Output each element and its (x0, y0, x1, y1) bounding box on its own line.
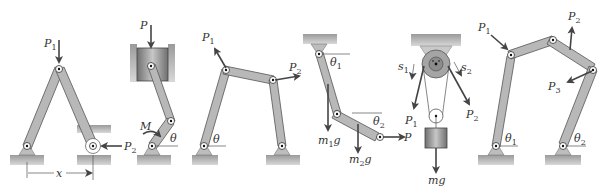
link-right (269, 80, 286, 146)
ceiling (411, 34, 461, 46)
link-coupler-1 (508, 36, 555, 59)
force-arrow-p1 (491, 35, 507, 49)
mass-block (425, 128, 447, 148)
label-theta2: θ2 (373, 115, 385, 130)
label-p1: P1 (477, 21, 491, 36)
label-m1g: m1g (318, 134, 341, 149)
disp-arrow-s2 (454, 62, 461, 75)
link-coupler (223, 66, 274, 84)
guide-wall-right (168, 44, 175, 82)
ceiling (303, 34, 337, 44)
label-mg: mg (428, 174, 445, 187)
label-p1: P1 (201, 31, 215, 46)
label-p: P (403, 131, 412, 144)
label-theta1: θ1 (505, 132, 517, 147)
label-p2: P2 (465, 108, 479, 123)
panel-c: P1 P2 θ (192, 31, 302, 165)
label-theta: θ (170, 132, 177, 145)
label-m: M (139, 120, 152, 133)
label-x: x (56, 167, 63, 180)
label-m2g: m2g (349, 153, 372, 168)
force-arrow-p1 (215, 49, 226, 68)
force-arrow-p2 (275, 76, 299, 80)
label-theta2: θ2 (574, 132, 586, 147)
panel-a: P1 P2 x (10, 37, 137, 180)
label-p2: P2 (123, 140, 137, 155)
label-p2: P2 (288, 61, 302, 76)
label-s1: s1 (398, 60, 409, 75)
force-arrow-p1 (414, 66, 424, 108)
label-p3: P3 (547, 80, 561, 95)
panel-f: P1 P2 P3 θ1 θ2 (477, 10, 597, 165)
panel-d: θ1 θ2 m1g m2g P (303, 34, 412, 168)
label-s2: s2 (461, 61, 472, 76)
ground-crank (137, 155, 171, 165)
label-p: P (139, 19, 148, 32)
label-p2: P2 (567, 10, 581, 25)
linkage-diagram: P1 P2 x P M θ (0, 0, 612, 195)
label-theta: θ (213, 133, 220, 146)
label-p1: P1 (43, 37, 57, 52)
panel-b: P M θ (130, 19, 178, 165)
label-p1: P1 (404, 114, 418, 129)
force-arrow-p2 (570, 28, 572, 50)
disp-arrow-s1 (412, 64, 414, 78)
panel-e: P1 P2 s1 s2 mg (398, 34, 479, 187)
link-right (56, 67, 97, 149)
ground-lower-guide (77, 155, 111, 165)
label-theta1: θ1 (330, 56, 342, 71)
guide-wall-left (130, 44, 137, 82)
link-left (23, 67, 63, 149)
